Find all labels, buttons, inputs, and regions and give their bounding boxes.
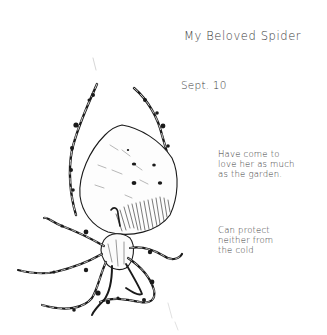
sketch-page: My Beloved Spider Sept. 10 Have come to … — [0, 0, 327, 335]
note-cold-text: Can protect neither from the cold — [218, 226, 273, 255]
date-text: Sept. 10 — [181, 79, 227, 91]
note-love-text: Have come to love her as much as the gar… — [218, 150, 295, 179]
title-text: My Beloved Spider — [184, 30, 301, 43]
